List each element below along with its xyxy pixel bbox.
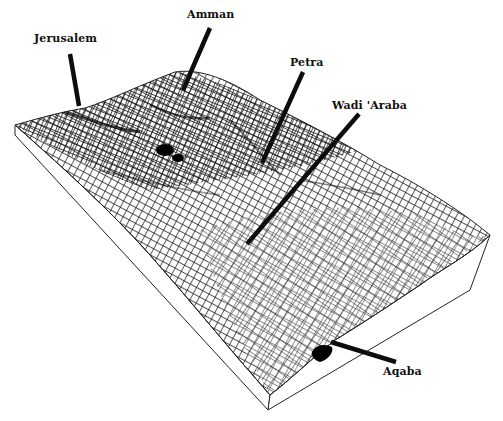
dead-sea-patch — [156, 144, 174, 156]
label-amman: Amman — [187, 8, 234, 21]
label-aqaba: Aqaba — [383, 365, 422, 378]
label-wadi-araba: Wadi 'Araba — [332, 99, 407, 112]
label-jerusalem: Jerusalem — [34, 32, 97, 45]
label-petra: Petra — [290, 56, 323, 69]
terrain-diagram: Jerusalem Amman Petra Wadi 'Araba Aqaba — [0, 0, 503, 421]
jerusalem-leader — [70, 54, 79, 106]
terrain-mesh — [0, 0, 503, 421]
terrain-block-svg — [0, 0, 503, 421]
